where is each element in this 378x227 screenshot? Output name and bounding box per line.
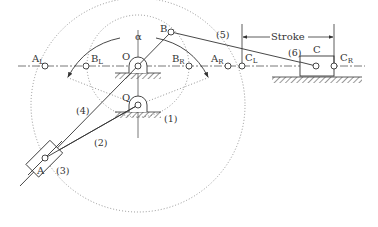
joint-Q	[135, 102, 141, 108]
joint-B	[168, 29, 174, 35]
label-link-1: (1)	[164, 113, 177, 124]
label-C: C	[313, 44, 321, 55]
label-A-L: AL	[31, 53, 44, 66]
label-Q: Q	[122, 92, 130, 103]
label-B-R: BR	[172, 53, 185, 66]
joint-B-L	[83, 63, 89, 69]
label-O: O	[122, 51, 130, 62]
ground-hatch-slider	[272, 77, 362, 83]
joint-O	[135, 63, 141, 69]
extreme-line-right	[138, 77, 210, 105]
label-C-R: CR	[340, 52, 354, 65]
ground-hatch-Q	[115, 112, 161, 118]
joint-C-R	[331, 63, 337, 69]
ground-hatch-O	[115, 73, 161, 79]
label-A: A	[36, 165, 45, 176]
label-B-L: BL	[91, 53, 103, 66]
joint-A-R	[225, 63, 231, 69]
label-link-2: (2)	[94, 137, 107, 148]
label-stroke: Stroke	[271, 31, 305, 42]
label-link-4: (4)	[76, 105, 89, 116]
label-link-6: (6)	[288, 47, 301, 58]
joint-B-R	[186, 63, 192, 69]
label-link-5: (5)	[216, 29, 229, 40]
joint-C-L	[239, 63, 245, 69]
mechanism-diagram: α O Q B A C Stroke AL BL BR AR CL CR (1)…	[0, 0, 378, 227]
label-link-3: (3)	[56, 165, 69, 176]
label-A-R: AR	[210, 53, 224, 66]
label-C-L: CL	[245, 52, 258, 65]
label-B: B	[160, 23, 167, 34]
joint-A	[42, 155, 48, 161]
label-alpha: α	[135, 31, 142, 42]
joint-C	[313, 63, 319, 69]
